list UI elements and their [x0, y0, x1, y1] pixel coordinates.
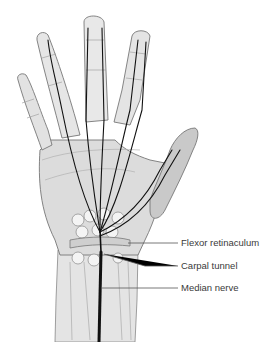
little-finger	[18, 74, 52, 150]
index-finger	[114, 31, 150, 125]
label-carpal-tunnel: Carpal tunnel	[181, 261, 238, 271]
label-flexor-retinaculum: Flexor retinaculum	[181, 238, 259, 248]
label-median-nerve: Median nerve	[181, 283, 239, 293]
